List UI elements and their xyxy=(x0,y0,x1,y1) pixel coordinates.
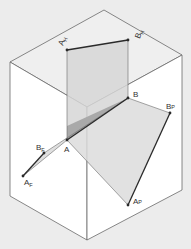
svg-text:H: H xyxy=(139,30,146,36)
diagram-canvas: A B A H B H AF BF AP BP xyxy=(0,0,191,249)
label-B: B xyxy=(133,90,138,99)
label-AP: AP xyxy=(133,197,142,206)
label-BP: BP xyxy=(166,102,175,111)
label-A: A xyxy=(64,145,70,154)
projection-diagram: A B A H B H AF BF AP BP xyxy=(0,0,191,249)
